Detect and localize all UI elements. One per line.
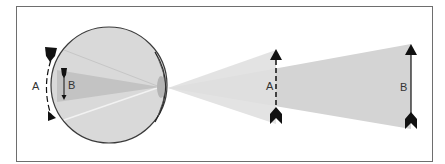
visual-angle-diagram: A B A B xyxy=(0,0,445,164)
diagram-canvas: A B A B xyxy=(0,0,445,164)
label-retina-b: B xyxy=(68,79,75,91)
label-retina-a: A xyxy=(32,80,40,92)
label-object-a: A xyxy=(266,80,274,92)
lens xyxy=(157,76,165,98)
label-object-b: B xyxy=(400,81,407,93)
